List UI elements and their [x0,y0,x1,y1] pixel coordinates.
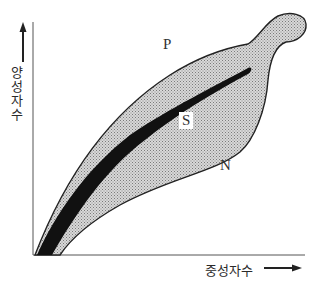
label-p: P [163,36,171,53]
y-axis-arrow-icon [20,22,27,62]
nuclide-stability-diagram: 양성자수 중성자수 P S N [0,0,323,293]
y-axis-label: 양성자수 [9,66,25,122]
label-n: N [220,157,231,174]
label-s: S [179,112,193,129]
diagram-canvas [0,0,323,293]
x-axis-label: 중성자수 [205,260,253,279]
x-axis-arrow-icon [264,265,302,272]
